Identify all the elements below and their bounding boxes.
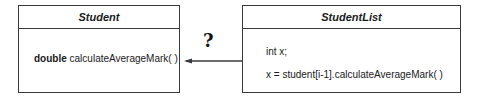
student-class-name: Student bbox=[19, 6, 179, 29]
studentlist-class-name: StudentList bbox=[243, 6, 460, 29]
relationship-label: ? bbox=[203, 30, 214, 51]
student-method: double calculateAverageMark( ) bbox=[34, 53, 178, 64]
arrow-left-icon bbox=[182, 55, 242, 67]
student-class-body: double calculateAverageMark( ) bbox=[19, 29, 179, 92]
studentlist-class-box: StudentList int x; x = student[i-1].calc… bbox=[242, 5, 461, 93]
studentlist-class-body: int x; x = student[i-1].calculateAverage… bbox=[243, 29, 460, 92]
method-return-type: double bbox=[34, 53, 67, 64]
studentlist-method-call: x = student[i-1].calculateAverageMark( ) bbox=[266, 69, 443, 80]
studentlist-declaration: int x; bbox=[266, 46, 287, 57]
student-class-box: Student double calculateAverageMark( ) bbox=[18, 5, 180, 93]
method-signature: calculateAverageMark( ) bbox=[70, 53, 178, 64]
